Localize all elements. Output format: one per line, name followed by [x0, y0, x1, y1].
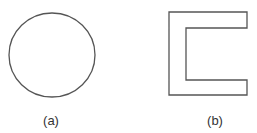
circle-shape — [9, 13, 95, 97]
label-a: (a) — [43, 113, 59, 128]
c-shape — [169, 12, 247, 95]
label-b: (b) — [207, 113, 223, 128]
diagram-canvas: (a) (b) — [0, 0, 257, 133]
